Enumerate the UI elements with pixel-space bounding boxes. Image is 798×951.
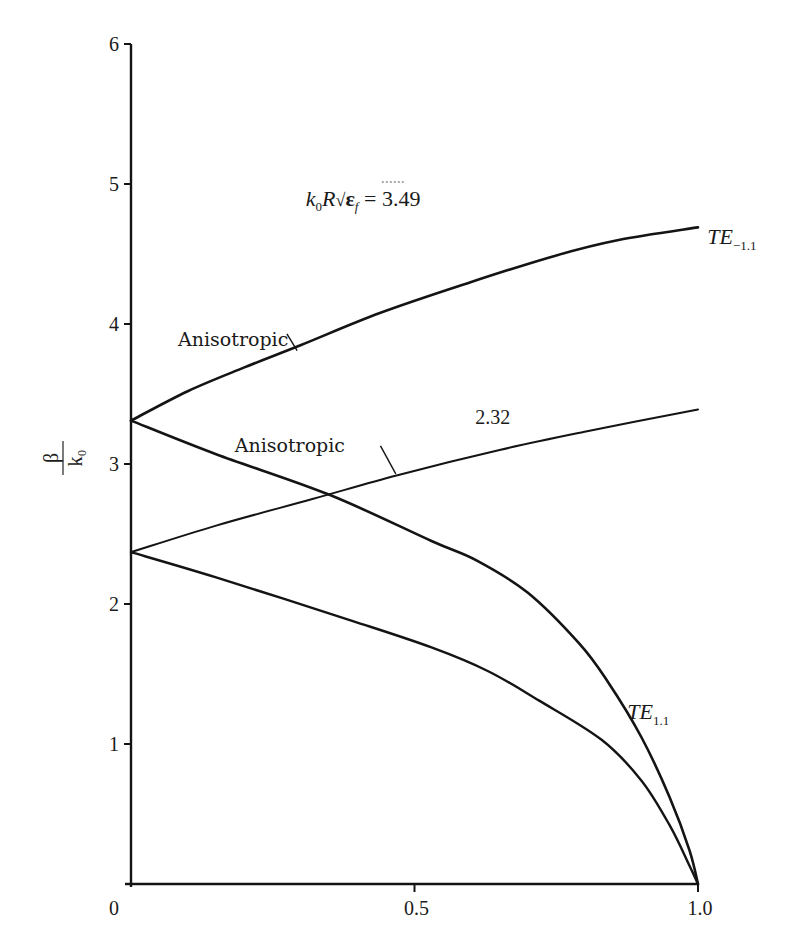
curve-TE-1.1-2.32 — [131, 409, 698, 552]
x-tick-label: 1.0 — [688, 897, 713, 919]
mode-label-te-1-1: TE1.1 — [627, 699, 669, 728]
x-tick-label: 0 — [109, 897, 119, 919]
y-tick-label: 4 — [109, 313, 119, 335]
anisotropic-label: Anisotropic — [177, 328, 288, 350]
parameter-label-3.49: k0R√εf = 3.49 — [306, 186, 421, 214]
y-tick-label: 3 — [109, 453, 119, 475]
y-tick-label: 2 — [109, 593, 119, 615]
curve-TE-1.1-3.49 — [131, 227, 698, 420]
y-tick-label: 1 — [109, 733, 119, 755]
y-axis-label: β k₀ — [40, 441, 86, 475]
mode-label-te-minus-1-1: TE−1.1 — [707, 224, 756, 253]
curve-TE1.1-3.49 — [131, 421, 698, 884]
y-tick-label: 6 — [109, 33, 119, 55]
axes: 12345600.51.0 — [109, 33, 713, 919]
y-axis-label-numerator: β — [40, 453, 63, 463]
curve-TE1.1-2.32 — [131, 552, 698, 884]
x-tick-label: 0.5 — [404, 897, 429, 919]
anisotropic-label: Anisotropic — [234, 434, 345, 456]
dispersion-chart: 12345600.51.0 k0R√εf = 3.49TE−1.12.32TE1… — [0, 0, 798, 951]
parameter-label-2.32: 2.32 — [475, 406, 510, 428]
annotations: k0R√εf = 3.49TE−1.12.32TE1.1AnisotropicA… — [177, 182, 757, 728]
y-tick-label: 5 — [109, 173, 119, 195]
anisotropic-leader-line — [380, 446, 395, 474]
y-axis-label-denominator: k₀ — [64, 449, 86, 466]
curves — [131, 227, 698, 884]
